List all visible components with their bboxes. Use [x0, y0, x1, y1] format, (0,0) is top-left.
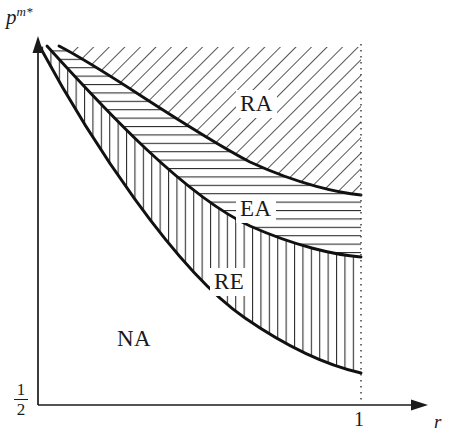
region-label-ra: RA [236, 90, 277, 118]
plot-canvas [0, 0, 453, 443]
phase-diagram-figure: pm* r 1 1 2 RA EA RE NA [0, 0, 453, 443]
region-label-re: RE [210, 268, 248, 296]
x-tick-label-one: 1 [354, 408, 364, 431]
y-axis-label-superscript: m* [17, 4, 33, 19]
x-axis-arrowhead [411, 400, 428, 411]
x-tick-label-one-half: 1 2 [10, 381, 32, 418]
y-axis-label-base: p [6, 5, 17, 29]
fraction-numerator: 1 [10, 381, 32, 398]
fraction-denominator: 2 [10, 401, 32, 418]
region-label-ea: EA [236, 195, 276, 223]
x-axis-label: r [434, 411, 441, 433]
y-axis-label: pm* [6, 4, 32, 30]
y-axis-arrowhead [33, 36, 44, 53]
region-label-na: NA [113, 325, 155, 353]
